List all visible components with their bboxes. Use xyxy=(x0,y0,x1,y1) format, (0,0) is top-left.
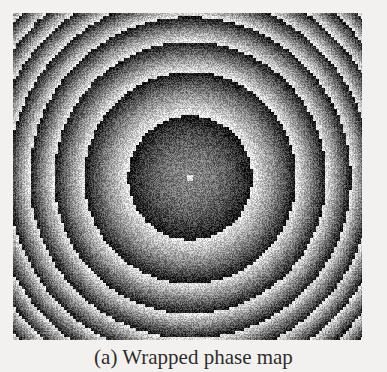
wrapped-phase-map-image xyxy=(13,13,362,340)
phase-fringe-canvas xyxy=(13,13,362,340)
figure-page: (a) Wrapped phase map xyxy=(0,0,387,372)
figure-caption-text: (a) Wrapped phase map xyxy=(0,345,387,370)
figure-caption: (a) Wrapped phase map xyxy=(0,345,387,372)
